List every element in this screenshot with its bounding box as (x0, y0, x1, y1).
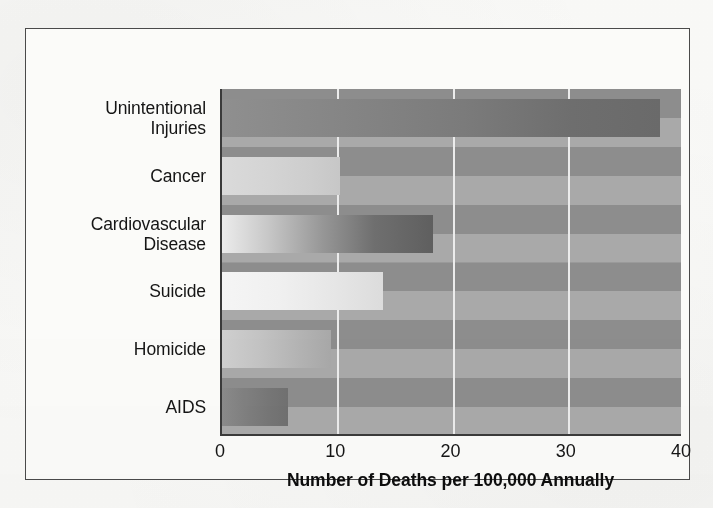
y-axis-label: Suicide (149, 281, 206, 301)
gridline (453, 89, 455, 434)
y-axis-label: Homicide (134, 339, 206, 359)
bar (222, 157, 340, 195)
y-axis-label: AIDS (166, 397, 206, 417)
y-axis-category-labels: Unintentional InjuriesCancerCardiovascul… (51, 89, 213, 436)
x-axis-tick-label: 40 (671, 440, 691, 462)
row-band (222, 407, 681, 436)
gridline (337, 89, 339, 434)
plot-area (220, 89, 681, 436)
x-axis-tick-label: 10 (325, 440, 345, 462)
bar (222, 388, 288, 426)
x-axis-tick-label: 20 (440, 440, 460, 462)
y-axis-label: Unintentional Injuries (105, 98, 206, 138)
row-band (222, 378, 681, 407)
x-axis-tick-label: 30 (556, 440, 576, 462)
y-axis-label: Cardiovascular Disease (91, 214, 206, 254)
bar (222, 272, 383, 310)
gridline (568, 89, 570, 434)
x-axis-tick-label: 0 (215, 440, 225, 462)
figure-frame: Unintentional InjuriesCancerCardiovascul… (25, 28, 690, 480)
y-axis-label: Cancer (150, 166, 206, 186)
bar (222, 99, 660, 137)
x-axis-title: Number of Deaths per 100,000 Annually (220, 470, 681, 491)
bar (222, 330, 331, 368)
bar (222, 215, 433, 253)
scanned-page-background: Unintentional InjuriesCancerCardiovascul… (0, 0, 713, 508)
